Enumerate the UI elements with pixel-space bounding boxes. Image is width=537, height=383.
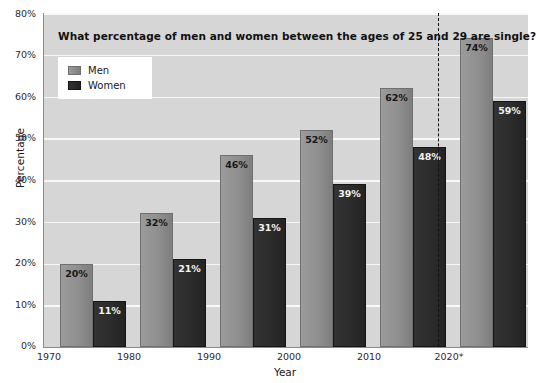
y-tick-60: 60% [0, 91, 36, 102]
y-tick-10: 10% [0, 299, 36, 310]
gridline-40 [44, 180, 528, 182]
legend-item-women[interactable]: Women [68, 78, 126, 93]
forecast-divider-line [438, 13, 439, 347]
bar-label-men-2020: 74% [461, 42, 492, 53]
bar-women-1990[interactable]: 31% [253, 218, 286, 347]
x-tick-1970: 1970 [9, 351, 89, 362]
x-tick-2020: 2020* [409, 351, 489, 362]
bar-label-men-2010: 62% [381, 92, 412, 103]
chart-figure: Percentage 80% 70% 60% 50% 40% 30% 20% 1… [0, 0, 537, 383]
bar-label-women-2010: 48% [414, 151, 445, 162]
legend-label-men: Men [88, 63, 109, 78]
bar-women-1980[interactable]: 21% [173, 259, 206, 347]
bar-label-men-1980: 32% [141, 217, 172, 228]
gridline-30 [44, 222, 528, 224]
legend-label-women: Women [88, 78, 126, 93]
legend-item-men[interactable]: Men [68, 63, 126, 78]
bar-men-2000[interactable]: 52% [300, 130, 333, 347]
x-tick-1980: 1980 [89, 351, 169, 362]
x-tick-1990: 1990 [169, 351, 249, 362]
y-tick-80: 80% [0, 8, 36, 19]
bar-label-men-1990: 46% [221, 159, 252, 170]
y-tick-0: 0% [0, 340, 36, 351]
bar-men-1970[interactable]: 20% [60, 264, 93, 348]
bar-women-2010[interactable]: 48% [413, 147, 446, 347]
y-tick-70: 70% [0, 49, 36, 60]
chart-question-title: What percentage of men and women between… [58, 30, 528, 42]
legend: Men Women [58, 57, 152, 99]
gridline-50 [44, 138, 528, 140]
bar-men-2020[interactable]: 74% [460, 38, 493, 347]
bar-women-1970[interactable]: 11% [93, 301, 126, 347]
bar-label-women-1980: 21% [174, 263, 205, 274]
bar-label-women-2020: 59% [494, 105, 525, 116]
y-tick-30: 30% [0, 216, 36, 227]
bar-label-women-1990: 31% [254, 222, 285, 233]
legend-swatch-women-icon [68, 81, 81, 90]
y-axis-title: Percentage [14, 108, 26, 208]
gridline-20 [44, 264, 528, 266]
bar-men-1980[interactable]: 32% [140, 213, 173, 347]
bar-label-men-2000: 52% [301, 134, 332, 145]
x-tick-2000: 2000 [249, 351, 329, 362]
bar-label-women-2000: 39% [334, 188, 365, 199]
bar-women-2020[interactable]: 59% [493, 101, 526, 347]
y-tick-20: 20% [0, 257, 36, 268]
x-axis-title: Year [43, 366, 527, 378]
bar-men-1990[interactable]: 46% [220, 155, 253, 347]
bar-label-women-1970: 11% [94, 305, 125, 316]
bar-men-2010[interactable]: 62% [380, 88, 413, 347]
gridline-80 [44, 13, 528, 15]
legend-swatch-men-icon [68, 66, 81, 75]
bar-label-men-1970: 20% [61, 268, 92, 279]
bar-women-2000[interactable]: 39% [333, 184, 366, 347]
x-tick-2010: 2010 [329, 351, 409, 362]
plot-area: 20% 11% 32% 21% 46% 31% 52% 39% 62% [43, 13, 528, 348]
